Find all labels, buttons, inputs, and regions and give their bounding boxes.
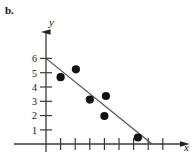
data-point (100, 112, 108, 120)
scatter-plot-figure: b. (0, 0, 191, 153)
y-tick-label-5: 5 (32, 68, 37, 79)
data-point (72, 65, 80, 73)
y-axis-label: y (48, 16, 54, 28)
data-point (134, 133, 142, 141)
y-tick-label-6: 6 (32, 53, 37, 64)
data-point (102, 92, 110, 100)
plot-canvas: 6 5 4 3 2 1 y x (0, 0, 191, 153)
trend-line (46, 58, 152, 144)
y-tick-label-1: 1 (32, 125, 37, 136)
data-point (86, 96, 94, 104)
x-axis-label: x (183, 141, 189, 153)
y-tick-label-4: 4 (32, 82, 37, 93)
y-tick-label-2: 2 (32, 110, 37, 121)
y-tick-label-3: 3 (32, 96, 37, 107)
y-axis-tick-labels: 6 5 4 3 2 1 (32, 53, 37, 136)
data-point (57, 73, 65, 81)
